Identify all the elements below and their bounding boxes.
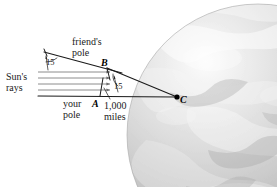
point-c-label: C [180, 94, 187, 105]
distance-label: 1,000 miles [104, 101, 127, 123]
angle-center-label: 15 [114, 82, 123, 91]
diagram-vector-layer [0, 0, 277, 187]
diagram-canvas: Sun's rays friend's pole your pole 1,000… [0, 0, 277, 187]
suns-rays-label: Sun's rays [6, 72, 27, 94]
your-pole-label: your pole [63, 99, 81, 121]
point-a-label: A [92, 98, 99, 109]
point-markers [174, 94, 179, 99]
earth-globe [127, 0, 277, 187]
point-b-label: B [101, 57, 108, 68]
angle-top-label: 15 [46, 58, 55, 67]
point-c-dot [174, 94, 179, 99]
suns-rays-group [38, 72, 110, 90]
friends-pole-label: friend's pole [72, 37, 102, 59]
your-pole-stick [100, 78, 103, 96]
